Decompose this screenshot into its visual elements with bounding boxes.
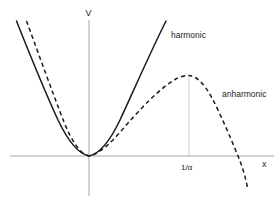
- y-axis-label: V: [86, 8, 92, 18]
- x-tick-label: 1/α: [181, 163, 193, 172]
- anharmonic-curve: [27, 21, 249, 190]
- potential-energy-figure: V x harmonic anharmonic 1/α: [0, 0, 280, 205]
- harmonic-label: harmonic: [171, 30, 207, 40]
- x-axis-label: x: [262, 159, 267, 169]
- anharmonic-label: anharmonic: [222, 89, 267, 99]
- harmonic-curve: [17, 21, 167, 156]
